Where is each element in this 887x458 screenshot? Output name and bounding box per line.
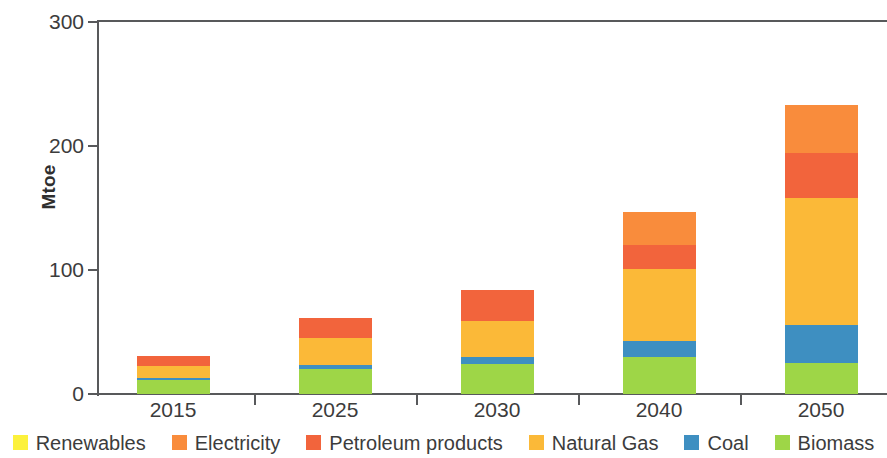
bar-group-2050[interactable] xyxy=(785,105,858,394)
legend-label-natural-gas: Natural Gas xyxy=(552,433,659,453)
bar-segment-2030-natural-gas[interactable] xyxy=(461,321,534,357)
x-axis-tick-2 xyxy=(578,394,580,405)
legend-label-coal: Coal xyxy=(707,433,748,453)
bar-segment-2050-petroleum-products[interactable] xyxy=(785,153,858,198)
y-axis-tick-100 xyxy=(88,269,98,271)
bar-segment-2050-coal[interactable] xyxy=(785,325,858,363)
legend-swatch-coal xyxy=(684,435,699,450)
bar-segment-2025-biomass[interactable] xyxy=(299,369,372,394)
x-axis-tick-3 xyxy=(740,394,742,405)
legend-swatch-biomass xyxy=(775,435,790,450)
legend-item-petroleum-products[interactable]: Petroleum products xyxy=(306,433,502,453)
y-axis-tick-label-300: 300 xyxy=(24,11,84,32)
bar-segment-2015-petroleum-products[interactable] xyxy=(137,356,210,366)
bar-segment-2015-natural-gas[interactable] xyxy=(137,366,210,378)
plot-top-border xyxy=(97,20,887,22)
legend-label-electricity: Electricity xyxy=(195,433,281,453)
bar-segment-2030-petroleum-products[interactable] xyxy=(461,290,534,321)
bar-segment-2040-electricity[interactable] xyxy=(623,212,696,245)
bar-group-2025[interactable] xyxy=(299,318,372,394)
legend-swatch-renewables xyxy=(13,435,28,450)
bar-segment-2040-coal[interactable] xyxy=(623,341,696,357)
legend-item-coal[interactable]: Coal xyxy=(684,433,748,453)
y-axis-tick-label-200: 200 xyxy=(24,135,84,156)
bar-segment-2050-electricity[interactable] xyxy=(785,105,858,153)
legend-label-biomass: Biomass xyxy=(798,433,875,453)
x-axis-tick-1 xyxy=(416,394,418,405)
x-axis-tick-label-2025: 2025 xyxy=(275,398,395,422)
legend-swatch-petroleum-products xyxy=(306,435,321,450)
bar-segment-2040-biomass[interactable] xyxy=(623,357,696,394)
bar-group-2030[interactable] xyxy=(461,290,534,394)
bar-segment-2040-natural-gas[interactable] xyxy=(623,269,696,341)
bar-segment-2015-biomass[interactable] xyxy=(137,380,210,394)
y-axis-tick-200 xyxy=(88,145,98,147)
y-axis-line xyxy=(97,20,99,396)
bar-segment-2030-coal[interactable] xyxy=(461,357,534,364)
x-axis-tick-label-2040: 2040 xyxy=(599,398,719,422)
x-axis-tick-label-2015: 2015 xyxy=(113,398,233,422)
legend-item-natural-gas[interactable]: Natural Gas xyxy=(529,433,659,453)
legend-item-electricity[interactable]: Electricity xyxy=(172,433,281,453)
legend-swatch-electricity xyxy=(172,435,187,450)
legend-label-renewables: Renewables xyxy=(36,433,146,453)
legend-item-biomass[interactable]: Biomass xyxy=(775,433,875,453)
stacked-bar-chart: Mtoe 3002001000 20152025203020402050 Ren… xyxy=(0,0,887,458)
bar-segment-2025-natural-gas[interactable] xyxy=(299,338,372,365)
bar-segment-2025-petroleum-products[interactable] xyxy=(299,318,372,338)
bar-segment-2040-petroleum-products[interactable] xyxy=(623,245,696,269)
bar-segment-2050-natural-gas[interactable] xyxy=(785,198,858,324)
legend-label-petroleum-products: Petroleum products xyxy=(329,433,502,453)
bar-group-2015[interactable] xyxy=(137,356,210,394)
legend-item-renewables[interactable]: Renewables xyxy=(13,433,146,453)
y-axis-tick-300 xyxy=(88,21,98,23)
x-axis-tick-label-2050: 2050 xyxy=(761,398,881,422)
bar-segment-2030-biomass[interactable] xyxy=(461,364,534,394)
chart-legend: RenewablesElectricityPetroleum productsN… xyxy=(0,427,887,458)
bar-group-2040[interactable] xyxy=(623,212,696,394)
y-axis-tick-label-0: 0 xyxy=(24,383,84,404)
legend-swatch-natural-gas xyxy=(529,435,544,450)
bar-segment-2050-biomass[interactable] xyxy=(785,363,858,394)
x-axis-tick-0 xyxy=(254,394,256,405)
x-axis-tick-label-2030: 2030 xyxy=(437,398,557,422)
y-axis-tick-0 xyxy=(88,393,98,395)
y-axis-tick-label-100: 100 xyxy=(24,259,84,280)
